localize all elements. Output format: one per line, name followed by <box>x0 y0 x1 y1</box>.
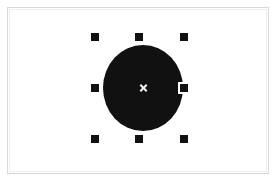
app-root <box>0 0 278 185</box>
resize-handle-middle-left[interactable] <box>91 84 99 92</box>
resize-handle-top-right[interactable] <box>180 33 188 41</box>
artboard[interactable] <box>10 10 266 171</box>
resize-handle-bottom-right[interactable] <box>180 135 188 143</box>
resize-handle-top-center[interactable] <box>135 33 143 41</box>
resize-handle-bottom-center[interactable] <box>135 135 143 143</box>
resize-handle-middle-right[interactable] <box>180 84 188 92</box>
center-anchor-cross-icon <box>139 83 148 92</box>
canvas-frame-inner-border <box>9 9 267 172</box>
resize-handle-top-left[interactable] <box>91 33 99 41</box>
canvas-frame <box>7 7 269 174</box>
resize-handle-bottom-left[interactable] <box>91 135 99 143</box>
